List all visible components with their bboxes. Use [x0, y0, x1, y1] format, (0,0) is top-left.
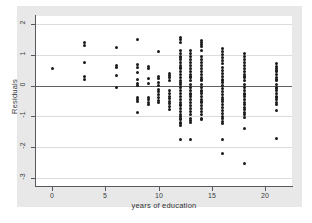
y-tick-label: -1 — [19, 108, 26, 122]
data-point — [275, 69, 278, 72]
data-point — [136, 100, 139, 103]
gridline-y--1 — [36, 116, 292, 117]
data-point — [221, 138, 224, 141]
data-point — [51, 67, 54, 70]
data-point — [157, 101, 160, 104]
data-point — [243, 116, 246, 119]
y-tick-label: 2 — [19, 16, 26, 30]
data-point — [179, 66, 182, 69]
data-point — [136, 71, 139, 74]
data-point — [168, 108, 171, 111]
data-point — [221, 122, 224, 125]
y-tick-label: -3 — [19, 170, 26, 184]
data-point — [221, 152, 224, 155]
x-tick-mark — [212, 187, 213, 191]
data-point — [243, 162, 246, 165]
data-point — [200, 118, 203, 121]
data-point — [200, 49, 203, 52]
data-point — [275, 109, 278, 112]
data-point — [136, 66, 139, 69]
data-point — [179, 56, 182, 59]
data-point — [179, 138, 182, 141]
x-tick-label: 10 — [149, 192, 169, 199]
data-point — [179, 81, 182, 84]
data-point — [179, 38, 182, 41]
y-tick-mark — [31, 55, 35, 56]
data-point — [136, 38, 139, 41]
y-tick-mark — [31, 24, 35, 25]
data-point — [189, 75, 192, 78]
data-point — [200, 100, 203, 103]
zero-reference-line — [36, 86, 292, 87]
data-point — [275, 78, 278, 81]
data-point — [189, 79, 192, 82]
data-point — [83, 44, 86, 47]
data-point — [243, 79, 246, 82]
data-point — [179, 41, 182, 44]
data-point — [189, 121, 192, 124]
x-tick-mark — [265, 187, 266, 191]
data-point — [200, 78, 203, 81]
data-point — [115, 86, 118, 89]
y-axis-line — [35, 15, 36, 187]
data-point — [189, 138, 192, 141]
data-point — [83, 78, 86, 81]
data-point — [147, 103, 150, 106]
x-tick-mark — [52, 187, 53, 191]
plot-area — [36, 16, 292, 186]
data-point — [243, 75, 246, 78]
data-point — [83, 61, 86, 64]
data-point — [179, 103, 182, 106]
scatter-plot-figure: 210-1-2-3 05101520 Residuals years of ed… — [0, 0, 312, 223]
y-tick-mark — [31, 86, 35, 87]
data-point — [275, 137, 278, 140]
data-point — [115, 46, 118, 49]
data-point — [200, 45, 203, 48]
x-tick-label: 15 — [202, 192, 222, 199]
y-tick-mark — [31, 147, 35, 148]
data-point — [243, 127, 246, 130]
data-point — [275, 103, 278, 106]
y-tick-label: 1 — [19, 47, 26, 61]
x-tick-mark — [159, 187, 160, 191]
data-point — [147, 77, 150, 80]
data-point — [115, 74, 118, 77]
data-point — [275, 87, 278, 90]
x-axis-line — [35, 186, 293, 187]
y-tick-mark — [31, 178, 35, 179]
gridline-y--3 — [36, 178, 292, 179]
data-point — [147, 82, 150, 85]
x-tick-label: 0 — [42, 192, 62, 199]
data-point — [179, 124, 182, 127]
data-point — [136, 111, 139, 114]
data-point — [147, 67, 150, 70]
y-tick-label: 0 — [19, 78, 26, 92]
data-point — [243, 93, 246, 96]
gridline-y--2 — [36, 147, 292, 148]
data-point — [221, 62, 224, 65]
data-point — [157, 77, 160, 80]
gridline-y-1 — [36, 55, 292, 56]
data-point — [157, 50, 160, 53]
y-axis-title: Residuals — [10, 67, 19, 127]
y-tick-mark — [31, 116, 35, 117]
data-point — [168, 79, 171, 82]
y-tick-label: -2 — [19, 139, 26, 153]
gridline-y-2 — [36, 24, 292, 25]
x-tick-label: 5 — [95, 192, 115, 199]
x-tick-label: 20 — [255, 192, 275, 199]
data-point — [115, 66, 118, 69]
data-point — [136, 84, 139, 87]
x-tick-mark — [105, 187, 106, 191]
x-axis-title: years of education — [36, 201, 292, 210]
